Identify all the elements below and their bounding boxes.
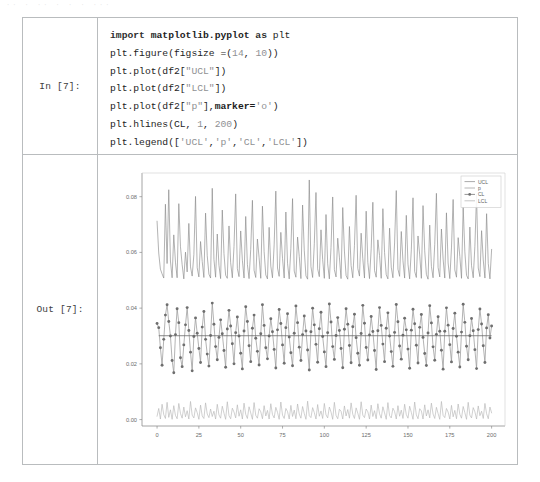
series-marker <box>405 328 408 331</box>
series-marker <box>315 343 318 346</box>
code-token: import <box>110 30 151 41</box>
series-marker <box>485 326 488 329</box>
series-marker <box>473 348 476 351</box>
series-marker <box>390 350 393 353</box>
series-marker <box>233 362 236 365</box>
series-marker <box>273 348 276 351</box>
series-marker <box>274 367 277 370</box>
code-editor[interactable]: import matplotlib.pyplot as pltplt.figur… <box>98 18 517 152</box>
series-marker <box>452 327 455 330</box>
series-marker <box>450 360 453 363</box>
series-marker <box>172 371 175 374</box>
series-marker <box>261 303 264 306</box>
series-marker <box>223 349 226 352</box>
series-marker <box>455 335 458 338</box>
series-marker <box>396 320 399 323</box>
series-marker <box>398 345 401 348</box>
series-marker <box>196 332 199 335</box>
series-marker <box>381 343 384 346</box>
series-marker <box>467 358 470 361</box>
series-marker <box>224 366 227 369</box>
series-marker <box>410 329 413 332</box>
series-marker <box>229 325 232 328</box>
series-marker <box>400 358 403 361</box>
series-marker <box>206 353 209 356</box>
series-marker <box>433 359 436 362</box>
series-marker <box>291 364 294 367</box>
series-ucl <box>157 180 492 279</box>
series-marker <box>308 369 311 372</box>
series-marker <box>445 306 448 309</box>
series-marker <box>346 323 349 326</box>
series-marker <box>348 344 351 347</box>
code-token: plt.figure(figsize =( <box>110 48 232 59</box>
series-marker <box>378 306 381 309</box>
series-marker <box>197 347 200 350</box>
series-marker <box>440 349 443 352</box>
series-marker <box>253 314 256 317</box>
series-marker <box>483 361 486 364</box>
x-tick-label: 150 <box>403 432 413 438</box>
notebook-input-row: In [7]: import matplotlib.pyplot as pltp… <box>23 18 517 155</box>
series-marker <box>425 364 428 367</box>
series-marker <box>345 307 348 310</box>
series-marker <box>365 346 368 349</box>
code-line: plt.plot(df2["LCL"]) <box>110 80 517 98</box>
series-marker <box>236 316 239 319</box>
series-marker <box>157 326 160 329</box>
series-marker <box>176 307 179 310</box>
series-marker <box>284 326 287 329</box>
series-marker <box>442 368 445 371</box>
series-marker <box>358 364 361 367</box>
series-marker <box>211 302 214 305</box>
series-marker <box>447 324 450 327</box>
series-marker <box>472 329 475 332</box>
series-marker <box>304 330 307 333</box>
series-marker <box>289 351 292 354</box>
series-marker <box>286 312 289 315</box>
chart-svg: 0.000.020.040.060.0802550751001251501752… <box>98 155 517 464</box>
series-marker <box>293 332 296 335</box>
code-line: plt.plot(df2["p"],marker='o') <box>110 98 517 116</box>
notebook-cell-table: In [7]: import matplotlib.pyplot as pltp… <box>22 17 518 465</box>
series-marker <box>184 323 187 326</box>
series-marker <box>234 331 237 334</box>
notebook-output-row: Out [7]: 0.000.020.040.060.0802550751001… <box>23 155 517 464</box>
series-marker <box>325 365 328 368</box>
code-cell-area[interactable]: import matplotlib.pyplot as pltplt.figur… <box>98 18 517 154</box>
code-token: )) <box>267 48 279 59</box>
series-marker <box>216 358 219 361</box>
series-line-lcl <box>157 401 492 419</box>
series-marker <box>353 313 356 316</box>
series-marker <box>296 321 299 324</box>
series-marker <box>199 361 202 364</box>
code-token: 200 <box>215 119 232 130</box>
series-marker <box>383 360 386 363</box>
series-marker <box>428 304 431 307</box>
series-marker <box>269 317 272 320</box>
series-marker <box>457 351 460 354</box>
series-marker <box>258 364 261 367</box>
series-marker <box>182 343 185 346</box>
series-marker <box>231 342 234 345</box>
series-marker <box>385 327 388 330</box>
series-marker <box>420 313 423 316</box>
series-marker <box>366 359 369 362</box>
series-marker <box>402 334 405 337</box>
chart-legend: UCLpCLLCL <box>461 176 501 208</box>
series-marker <box>311 307 314 310</box>
y-tick-label: 0.02 <box>126 361 137 367</box>
series-marker <box>306 348 309 351</box>
series-marker <box>276 328 279 331</box>
series-marker <box>259 332 262 335</box>
series-marker <box>363 322 366 325</box>
series-marker <box>299 359 302 362</box>
series-marker <box>418 326 421 329</box>
code-token: "LCL" <box>186 83 215 94</box>
series-marker <box>470 317 473 320</box>
code-token: ]) <box>215 83 227 94</box>
series-marker <box>477 328 480 331</box>
series-marker <box>246 320 249 323</box>
series-marker <box>475 367 478 370</box>
code-token: 'o' <box>255 101 272 112</box>
